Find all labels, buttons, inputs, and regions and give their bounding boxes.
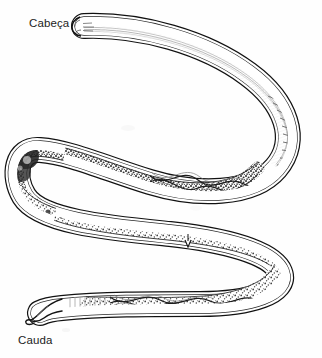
nematode-illustration [0,0,322,358]
illustration-canvas: Cabeça Cauda [0,0,322,358]
label-cauda: Cauda [18,334,52,347]
label-cabeca: Cabeça [29,17,69,30]
